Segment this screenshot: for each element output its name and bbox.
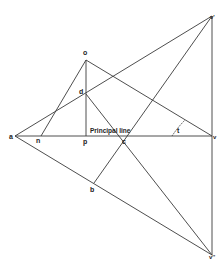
line-a-vbottom [15,136,212,255]
label-n: n [36,137,40,144]
label-p: p [83,138,87,146]
label-v-top: v' [210,14,215,20]
label-b: b [90,186,94,193]
label-a: a [9,133,13,140]
line-o-v [86,60,212,136]
line-o-n [41,60,86,136]
label-c: c [122,138,126,145]
label-v: v [213,134,217,140]
label-d: d [79,88,83,95]
principal-line-label: Principal line [90,127,131,135]
line-d-vbottom [86,94,212,255]
label-v-bottom: v'' [209,254,216,260]
line-b-vtop [94,16,212,183]
perspective-diagram: a n p o d c b v v' v'' Principal line t [0,0,222,263]
label-o: o [83,49,87,56]
label-angle-t: t [177,127,180,134]
